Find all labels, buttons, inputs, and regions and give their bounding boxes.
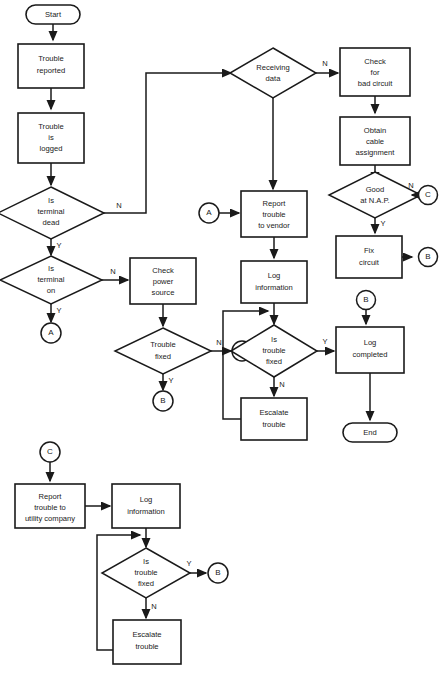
node-log-info-mid-line2: information [255,283,293,292]
connector-c-right-label: C [425,190,431,199]
connector-c-right: C [419,186,438,205]
connector-b-left-label: B [160,396,165,405]
node-start: Start [26,5,80,24]
node-is-terminal-dead-line1: Is [48,196,54,205]
node-trouble-logged-line2: is [48,133,54,142]
node-good-at-nap: Good at N.A.P. [329,172,421,218]
connector-a-mid-label: A [206,208,212,217]
node-trouble-logged-line1: Trouble [38,122,63,131]
edge-label-good-nap-y: Y [380,219,385,228]
connector-c-bottom-label: C [47,447,53,456]
node-log-info-bottom-line1: Log [140,495,153,504]
node-escalate-mid-line2: trouble [262,420,285,429]
node-log-completed-line2: completed [352,350,387,359]
node-is-terminal-on: Is terminal on [0,256,102,304]
node-trouble-fixed-left: Trouble fixed [115,328,211,374]
node-receiving-data-line2: data [266,74,282,83]
node-report-trouble-utility: Report trouble to utility company [15,484,85,528]
node-obtain-cable-assignment: Obtain cable assignment [340,117,410,165]
flowchart-canvas: Start Trouble reported Trouble is logged… [0,0,444,673]
edge-label-trouble-fixed-left-n: N [216,338,221,347]
node-escalate-bottom-line2: trouble [135,642,158,651]
node-trouble-logged: Trouble is logged [18,113,84,163]
node-trouble-fixed-bottom-line2: trouble [134,568,157,577]
edge-label-terminal-dead-n: N [116,201,121,210]
node-check-power-source-line3: source [152,288,175,297]
node-trouble-reported-line1: Trouble [38,54,63,63]
node-good-at-nap-line2: at N.A.P. [360,196,389,205]
node-log-completed: Log completed [336,327,404,373]
node-log-info-mid-line1: Log [268,271,281,280]
node-obtain-cable-line2: cable [366,137,384,146]
node-fix-circuit: Fix circuit [336,236,402,278]
node-end-label: End [363,428,377,437]
node-trouble-reported-line2: reported [37,66,65,75]
edge-label-good-nap-n: N [408,181,413,190]
node-report-vendor-line2: trouble [262,210,285,219]
node-fix-circuit-line1: Fix [364,246,374,255]
connector-a-left: A [41,323,61,343]
node-trouble-fixed-mid-line2: trouble [262,346,285,355]
node-receiving-data-line1: Receiving [256,63,289,72]
node-good-at-nap-line1: Good [366,185,385,194]
node-trouble-fixed-left-line2: fixed [155,352,171,361]
connector-b-bottom: B [208,563,228,583]
node-end: End [343,423,397,442]
node-trouble-fixed-left-line1: Trouble [150,340,175,349]
node-obtain-cable-line1: Obtain [364,126,386,135]
edge-label-terminal-on-n: N [110,267,115,276]
node-trouble-logged-line3: logged [40,144,63,153]
node-report-utility-line1: Report [39,492,63,501]
node-is-trouble-fixed-bottom: Is trouble fixed [102,548,190,598]
node-fix-circuit-line2: circuit [359,258,380,267]
edge-label-trouble-fixed-mid-n: N [279,380,284,389]
node-log-completed-line1: Log [364,338,377,347]
node-check-bad-circuit-line3: bad circuit [358,79,393,88]
node-log-information-mid: Log information [241,261,307,303]
node-is-terminal-dead-line3: dead [43,218,60,227]
connector-c-bottom: C [40,442,60,462]
node-report-utility-line3: utility company [25,514,75,523]
node-log-info-bottom-line2: information [127,507,165,516]
node-is-terminal-dead-line2: terminal [37,207,64,216]
connector-b-fix-label: B [425,252,430,261]
flowchart-svg: Start Trouble reported Trouble is logged… [0,0,444,673]
edge-terminal-dead-n-to-receiving-data [104,73,231,213]
node-is-trouble-fixed-mid: Is trouble fixed [231,325,317,377]
node-check-bad-circuit-line1: Check [364,57,386,66]
node-check-bad-circuit: Check for bad circuit [340,48,410,96]
edge-label-receiving-data-n: N [322,59,327,68]
edge-label-trouble-fixed-left-y: Y [168,376,173,385]
node-trouble-fixed-bottom-line3: fixed [138,579,154,588]
node-is-terminal-on-line1: Is [48,264,54,273]
edge-label-terminal-dead-y: Y [56,241,61,250]
node-is-terminal-on-line3: on [47,286,55,295]
node-check-power-source-line1: Check [152,266,174,275]
node-obtain-cable-line3: assignment [356,148,396,157]
connector-b-log: B [357,291,376,310]
node-check-power-source: Check power source [130,258,196,304]
node-receiving-data: Receiving data [230,48,316,98]
connector-a-left-label: A [48,328,54,337]
node-report-trouble-vendor: Report trouble to vendor [241,191,307,237]
node-trouble-reported: Trouble reported [18,44,84,88]
node-escalate-trouble-bottom: Escalate trouble [113,620,181,664]
node-escalate-mid-line1: Escalate [259,408,288,417]
node-report-utility-line2: trouble to [34,503,66,512]
node-escalate-bottom-line1: Escalate [132,630,161,639]
connector-b-fix: B [419,248,438,267]
node-escalate-trouble-mid: Escalate trouble [241,398,307,440]
node-start-label: Start [45,10,62,19]
connector-b-left: B [153,391,173,411]
node-is-terminal-on-line2: terminal [37,275,64,284]
edge-label-trouble-fixed-bottom-y: Y [186,559,191,568]
node-log-information-bottom: Log information [112,484,180,528]
connector-b-log-label: B [363,295,368,304]
edge-label-trouble-fixed-mid-y: Y [322,337,327,346]
connector-a-mid: A [199,203,219,223]
node-trouble-fixed-mid-line3: fixed [266,357,282,366]
node-is-terminal-dead: Is terminal dead [0,187,104,239]
node-trouble-fixed-mid-line1: Is [271,335,277,344]
node-report-vendor-line1: Report [263,199,287,208]
node-check-power-source-line2: power [153,277,174,286]
